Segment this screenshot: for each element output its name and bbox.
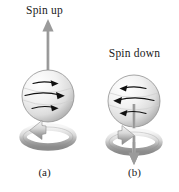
panel-spin-down: Spin down xyxy=(90,0,179,192)
caption-a: (a) xyxy=(0,166,89,178)
sphere-spin-up xyxy=(22,70,74,122)
caption-b: (b) xyxy=(90,166,179,178)
spin-axis-arrow-down-tail xyxy=(128,142,139,165)
spin-up-graphic xyxy=(0,0,89,192)
spin-figure: Spin up xyxy=(0,0,179,192)
spin-down-graphic xyxy=(90,0,179,192)
rotation-ring-counterclockwise xyxy=(23,121,73,148)
panel-spin-up: Spin up xyxy=(0,0,89,192)
